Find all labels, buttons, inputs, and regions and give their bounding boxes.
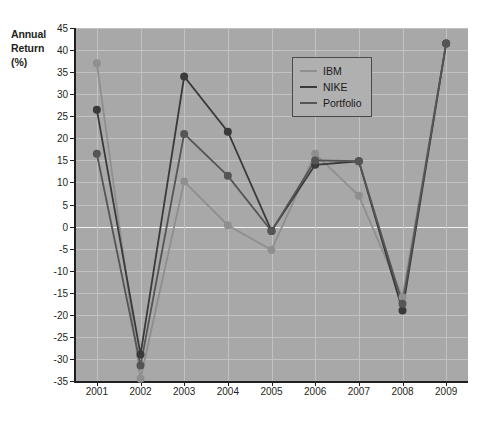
data-point-portfolio-2005 xyxy=(268,227,276,235)
data-point-portfolio-2006 xyxy=(311,156,319,164)
legend-item-ibm[interactable]: IBM xyxy=(300,63,362,79)
data-point-nike-2004 xyxy=(224,128,232,136)
data-point-portfolio-2008 xyxy=(399,300,407,308)
legend-swatch-portfolio xyxy=(300,102,317,104)
data-point-ibm-2002 xyxy=(137,375,145,383)
data-point-ibm-2007 xyxy=(355,192,363,200)
annual-return-line-chart: Annual Return (%) 454035302520151050-5-1… xyxy=(0,0,503,421)
legend-label-nike: NIKE xyxy=(323,81,348,93)
data-point-portfolio-2001 xyxy=(93,150,101,158)
legend-item-portfolio[interactable]: Portfolio xyxy=(300,95,362,111)
legend-item-nike[interactable]: NIKE xyxy=(300,79,362,95)
series-layer xyxy=(0,0,503,421)
data-point-nike-2001 xyxy=(93,106,101,114)
series-line-portfolio xyxy=(97,43,446,365)
data-point-ibm-2001 xyxy=(93,59,101,67)
legend-swatch-nike xyxy=(300,86,317,88)
legend-label-portfolio: Portfolio xyxy=(323,97,362,109)
data-point-portfolio-2007 xyxy=(355,157,363,165)
data-point-portfolio-2009 xyxy=(442,39,450,47)
data-point-nike-2002 xyxy=(137,351,145,359)
series-line-nike xyxy=(97,43,446,354)
data-point-nike-2003 xyxy=(180,73,188,81)
legend-swatch-ibm xyxy=(300,70,317,72)
data-point-portfolio-2002 xyxy=(137,362,145,370)
series-line-ibm xyxy=(97,43,446,378)
data-point-ibm-2004 xyxy=(224,221,232,229)
legend-label-ibm: IBM xyxy=(323,65,342,77)
legend: IBM NIKE Portfolio xyxy=(292,57,372,117)
data-point-ibm-2005 xyxy=(268,246,276,254)
data-point-ibm-2003 xyxy=(180,178,188,186)
data-point-portfolio-2004 xyxy=(224,172,232,180)
data-point-portfolio-2003 xyxy=(180,130,188,138)
